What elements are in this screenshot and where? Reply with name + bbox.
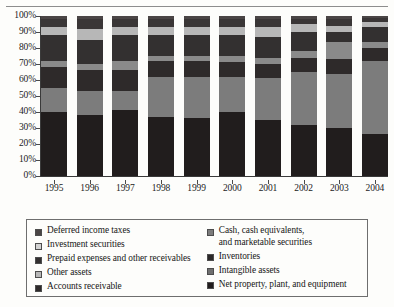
x-axis-tickmark: [304, 180, 305, 184]
bar-segment[interactable]: [41, 19, 67, 27]
legend-item[interactable]: Accounts receivable: [35, 281, 207, 293]
bar-segment[interactable]: [112, 61, 138, 71]
bar-segment[interactable]: [184, 35, 210, 56]
bar-column[interactable]: [255, 16, 281, 176]
bar-segment[interactable]: [77, 70, 103, 91]
bar-segment[interactable]: [326, 32, 352, 42]
legend-item[interactable]: Net property, plant, and equipment: [207, 279, 361, 291]
bar-segment[interactable]: [148, 35, 174, 56]
bar-segment[interactable]: [219, 27, 245, 35]
bar-segment[interactable]: [112, 70, 138, 91]
bar-segment[interactable]: [326, 42, 352, 60]
chart-figure: 0%10%20%30%40%50%60%70%80%90%100% 199519…: [0, 0, 394, 307]
y-axis-tick-label: 10%: [19, 155, 36, 165]
legend-item[interactable]: Cash, cash equivalents, and marketable s…: [207, 225, 361, 248]
bar-segment[interactable]: [41, 112, 67, 176]
bar-segment[interactable]: [148, 61, 174, 77]
bar-segment[interactable]: [219, 35, 245, 56]
y-axis-tick-label: 20%: [19, 139, 36, 149]
bar-segment[interactable]: [112, 19, 138, 27]
bar-segment[interactable]: [291, 58, 317, 72]
legend-item[interactable]: Intangible assets: [207, 265, 361, 277]
bar-segment[interactable]: [255, 64, 281, 78]
bar-segment[interactable]: [184, 61, 210, 77]
y-axis-tick-label: 0%: [24, 171, 36, 181]
bar-segment[interactable]: [219, 112, 245, 176]
bar-column[interactable]: [291, 16, 317, 176]
bar-segment[interactable]: [41, 88, 67, 112]
bar-segment[interactable]: [219, 19, 245, 27]
bar-segment[interactable]: [148, 19, 174, 27]
legend-item-label: Investment securities: [47, 239, 125, 251]
bar-segment[interactable]: [291, 72, 317, 125]
bar-column[interactable]: [112, 16, 138, 176]
y-axis-tick-label: 60%: [19, 75, 36, 85]
top-divider-rule: [6, 6, 388, 7]
bar-column[interactable]: [148, 16, 174, 176]
bar-segment[interactable]: [362, 48, 388, 61]
y-axis-tick-label: 70%: [19, 59, 36, 69]
y-axis-tick-label: 30%: [19, 123, 36, 133]
bar-segment[interactable]: [77, 40, 103, 64]
bar-segment[interactable]: [112, 27, 138, 35]
x-axis-tickmark: [161, 180, 162, 184]
legend-item-label: Net property, plant, and equipment: [219, 279, 347, 291]
bar-column[interactable]: [219, 16, 245, 176]
bar-segment[interactable]: [148, 117, 174, 176]
legend-item[interactable]: Deferred income taxes: [35, 225, 207, 237]
bar-segment[interactable]: [326, 128, 352, 176]
legend-item-label: Intangible assets: [219, 265, 280, 277]
bar-segment[interactable]: [77, 115, 103, 176]
legend-item[interactable]: Investment securities: [35, 239, 207, 251]
bar-segment[interactable]: [148, 77, 174, 117]
bar-segment[interactable]: [362, 134, 388, 176]
bar-segment[interactable]: [291, 32, 317, 51]
bar-segment[interactable]: [77, 19, 103, 29]
bar-segment[interactable]: [112, 110, 138, 176]
bar-column[interactable]: [41, 16, 67, 176]
bar-segment[interactable]: [255, 19, 281, 27]
legend-item[interactable]: Other assets: [35, 267, 207, 279]
bar-segment[interactable]: [255, 78, 281, 120]
bar-segment[interactable]: [255, 120, 281, 176]
bar-segment[interactable]: [362, 61, 388, 135]
x-axis-tickmark: [268, 180, 269, 184]
bar-segment[interactable]: [112, 91, 138, 110]
legend-swatch-icon: [35, 271, 42, 278]
bar-segment[interactable]: [41, 27, 67, 35]
x-axis-tickmark: [90, 180, 91, 184]
bar-segment[interactable]: [326, 59, 352, 73]
bar-segment[interactable]: [184, 77, 210, 119]
x-axis-tickmark: [54, 180, 55, 184]
legend-item[interactable]: Inventories: [207, 251, 361, 263]
bar-segment[interactable]: [41, 67, 67, 88]
bar-segment[interactable]: [77, 91, 103, 115]
legend-item-label: Cash, cash equivalents, and marketable s…: [219, 225, 312, 248]
bar-column[interactable]: [184, 16, 210, 176]
legend-column-right: Cash, cash equivalents, and marketable s…: [207, 225, 361, 292]
legend-item-label: Prepaid expenses and other receivables: [47, 253, 191, 265]
bar-column[interactable]: [326, 16, 352, 176]
bar-segment[interactable]: [219, 62, 245, 76]
bar-segment[interactable]: [184, 19, 210, 27]
bar-segment[interactable]: [362, 27, 388, 41]
bar-segment[interactable]: [77, 29, 103, 40]
bar-segment[interactable]: [41, 35, 67, 61]
bar-segment[interactable]: [326, 74, 352, 128]
bar-segment[interactable]: [184, 118, 210, 176]
bar-segment[interactable]: [148, 27, 174, 35]
x-axis-tickmark: [339, 180, 340, 184]
bar-segment[interactable]: [219, 77, 245, 112]
bar-segment[interactable]: [255, 27, 281, 37]
bar-segment[interactable]: [255, 37, 281, 58]
legend-item-label: Other assets: [47, 267, 92, 279]
bar-segment[interactable]: [291, 125, 317, 176]
bar-segment[interactable]: [112, 35, 138, 61]
legend-item-label: Accounts receivable: [47, 281, 122, 293]
bar-segment[interactable]: [184, 27, 210, 35]
bar-column[interactable]: [362, 16, 388, 176]
legend-column-left: Deferred income taxesInvestment securiti…: [35, 225, 207, 292]
legend-item[interactable]: Prepaid expenses and other receivables: [35, 253, 207, 265]
bar-column[interactable]: [77, 16, 103, 176]
bar-segment[interactable]: [291, 24, 317, 32]
